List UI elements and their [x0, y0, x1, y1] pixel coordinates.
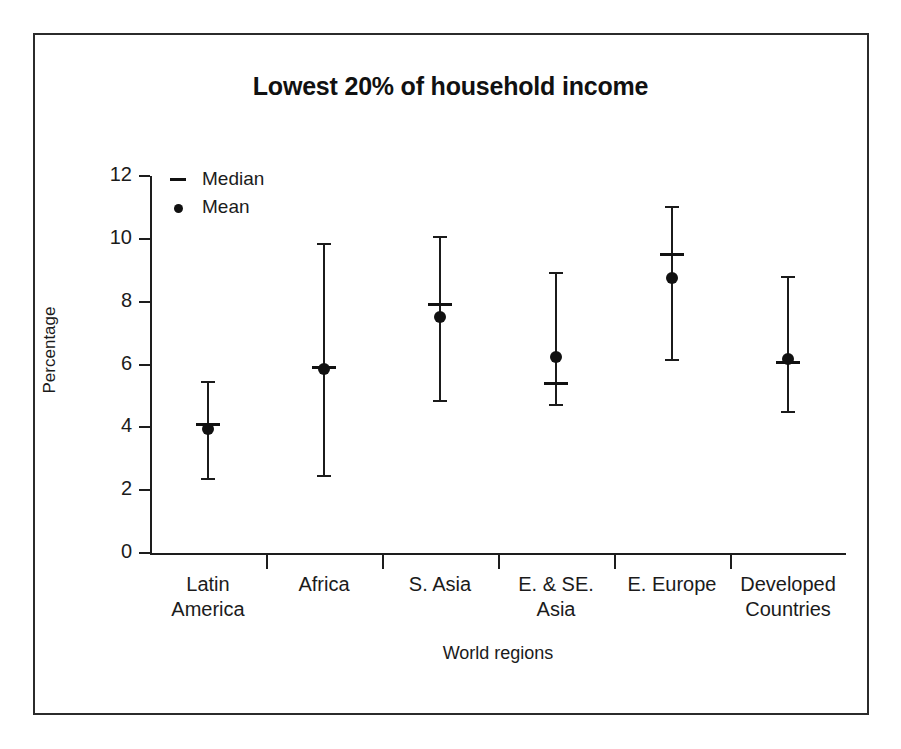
- mean-marker: [434, 311, 446, 323]
- y-tick-label-6: 6: [92, 352, 132, 375]
- whisker-cap-low: [665, 359, 679, 361]
- y-tick-label-8: 8: [92, 289, 132, 312]
- chart-legend: Median Mean: [168, 165, 264, 221]
- whisker-cap-high: [781, 276, 795, 278]
- mean-marker: [202, 423, 214, 435]
- y-axis-line: [150, 176, 152, 555]
- mean-marker: [550, 351, 562, 363]
- x-separator-tick-4: [614, 555, 616, 569]
- figure-container: Lowest 20% of household income 024681012…: [0, 0, 901, 749]
- median-marker: [544, 382, 568, 385]
- y-axis-title: Percentage: [40, 270, 60, 430]
- whisker-cap-high: [665, 206, 679, 208]
- y-tick-10: [139, 238, 150, 240]
- whisker-cap-low: [433, 400, 447, 402]
- legend-label-median: Median: [202, 168, 264, 189]
- category-label-1: Africa: [266, 572, 382, 597]
- category-label-0: Latin America: [150, 572, 266, 622]
- whisker-cap-high: [433, 236, 447, 238]
- x-separator-tick-2: [382, 555, 384, 569]
- whisker-cap-low: [201, 478, 215, 480]
- x-separator-tick-5: [730, 555, 732, 569]
- category-label-3: E. & SE. Asia: [498, 572, 614, 622]
- y-tick-12: [139, 175, 150, 177]
- category-label-2: S. Asia: [382, 572, 498, 597]
- legend-item-mean: Mean: [168, 193, 264, 221]
- mean-dot-icon: [174, 204, 183, 213]
- whisker-cap-high: [549, 272, 563, 274]
- y-tick-label-4: 4: [92, 414, 132, 437]
- whisker-cap-low: [549, 404, 563, 406]
- whisker-line: [787, 277, 789, 412]
- y-tick-label-0: 0: [92, 540, 132, 563]
- median-marker: [428, 303, 452, 306]
- y-tick-label-12: 12: [92, 163, 132, 186]
- y-tick-2: [139, 489, 150, 491]
- whisker-line: [323, 244, 325, 476]
- whisker-cap-high: [201, 381, 215, 383]
- plot-area: 024681012 Latin AmericaAfricaS. AsiaE. &…: [0, 0, 901, 749]
- median-marker: [660, 253, 684, 256]
- mean-marker: [318, 363, 330, 375]
- category-label-5: Developed Countries: [730, 572, 846, 622]
- y-tick-label-2: 2: [92, 477, 132, 500]
- x-separator-tick-1: [266, 555, 268, 569]
- mean-marker: [666, 272, 678, 284]
- y-tick-8: [139, 301, 150, 303]
- y-tick-label-10: 10: [92, 226, 132, 249]
- legend-label-mean: Mean: [202, 196, 250, 217]
- y-tick-0: [139, 552, 150, 554]
- whisker-line: [555, 273, 557, 405]
- y-tick-4: [139, 426, 150, 428]
- median-dash-icon: [170, 178, 186, 181]
- legend-item-median: Median: [168, 165, 264, 193]
- mean-marker: [782, 353, 794, 365]
- whisker-cap-low: [781, 411, 795, 413]
- whisker-cap-high: [317, 243, 331, 245]
- category-label-4: E. Europe: [614, 572, 730, 597]
- y-tick-6: [139, 364, 150, 366]
- x-separator-tick-3: [498, 555, 500, 569]
- whisker-cap-low: [317, 475, 331, 477]
- x-axis-title: World regions: [150, 643, 846, 664]
